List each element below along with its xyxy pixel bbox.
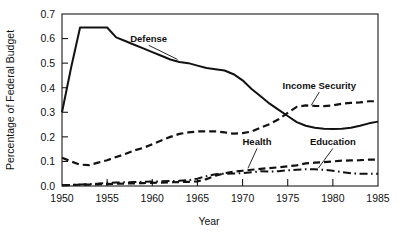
series-label-health: Health: [242, 136, 271, 147]
y-tick-label: 0.6: [40, 32, 55, 44]
y-tick-label: 0.5: [40, 57, 55, 69]
chart-figure: 0.00.10.20.30.40.50.60.7 195019551960196…: [0, 0, 413, 235]
x-tick-label: 1980: [321, 192, 345, 204]
x-tick-label: 1960: [141, 192, 165, 204]
y-axis-title: Percentage of Federal Budget: [4, 30, 16, 170]
x-tick-label: 1975: [276, 192, 300, 204]
x-tick-label: 1985: [366, 192, 390, 204]
y-tick-label: 0.1: [40, 155, 55, 167]
series-label-defense: Defense: [130, 33, 167, 44]
x-tick-label: 1970: [231, 192, 255, 204]
y-tick-label: 0.2: [40, 131, 55, 143]
series-label-education: Education: [310, 136, 356, 147]
x-tick-label: 1965: [186, 192, 210, 204]
x-tick-label: 1955: [95, 192, 119, 204]
y-tick-label: 0.7: [40, 8, 55, 20]
x-tick-label: 1950: [50, 192, 74, 204]
y-tick-label: 0.4: [40, 82, 55, 94]
series-label-income-security: Income Security: [283, 80, 357, 91]
x-axis-title: Year: [198, 215, 220, 227]
y-tick-label: 0.0: [40, 180, 55, 192]
budget-line-chart: 0.00.10.20.30.40.50.60.7 195019551960196…: [0, 0, 413, 235]
y-tick-label: 0.3: [40, 106, 55, 118]
